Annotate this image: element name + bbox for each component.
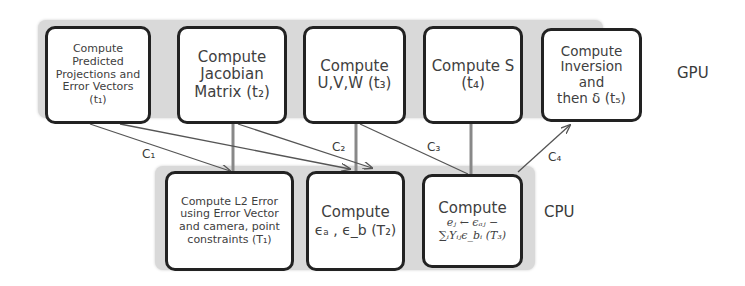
wire-c2	[238, 124, 372, 168]
gpu-task-t1: Compute Predicted Projections and Error …	[45, 26, 151, 124]
task-line: Compute	[321, 204, 389, 221]
gpu-task-t2: Compute Jacobian Matrix (t₂)	[177, 26, 287, 124]
cpu-label: CPU	[544, 203, 575, 221]
wire-c3	[360, 124, 468, 174]
task-line: Compute	[561, 44, 623, 60]
task-line: constraints (T₁)	[187, 234, 271, 247]
task-line: eⱼ ← ϵₐⱼ −	[447, 217, 499, 230]
label-c4: C₄	[548, 150, 561, 164]
task-line: Compute	[320, 58, 388, 75]
cpu-task-T3: Compute eⱼ ← ϵₐⱼ − ∑ᵢYᵢⱼϵ_bᵢ (T₃)	[422, 174, 523, 268]
task-line: ∑ᵢYᵢⱼϵ_bᵢ (T₃)	[439, 230, 506, 243]
wire-c1	[90, 124, 230, 171]
task-line: and	[579, 75, 604, 91]
cpu-task-T1: Compute L2 Error using Error Vector and …	[165, 171, 294, 271]
cpu-task-T2: Compute ϵₐ , ϵ_b (T₂)	[306, 171, 405, 271]
gpu-task-t3: Compute U,V,W (t₃)	[303, 26, 406, 124]
task-line: Compute	[198, 49, 266, 66]
label-c2: C₂	[332, 140, 345, 154]
task-line: (t₁)	[89, 94, 106, 107]
task-line: U,V,W (t₃)	[318, 75, 392, 92]
gpu-label: GPU	[677, 64, 709, 82]
task-line: Jacobian	[200, 66, 263, 83]
task-line: (t₄)	[461, 75, 485, 92]
task-line: Predicted	[72, 56, 124, 69]
task-line: and camera, point	[179, 221, 280, 234]
wire-c4	[518, 125, 570, 172]
label-c1: C₁	[142, 147, 155, 161]
gpu-task-t4: Compute S (t₄)	[423, 26, 523, 124]
task-line: Matrix (t₂)	[194, 84, 270, 101]
task-line: Compute	[438, 200, 506, 217]
task-line: ϵₐ , ϵ_b (T₂)	[315, 222, 396, 238]
task-line: Compute S	[432, 58, 515, 75]
gpu-task-t5: Compute Inversion and then δ (t₅)	[541, 28, 642, 122]
label-c3: C₃	[427, 140, 440, 154]
task-line: Inversion	[561, 59, 623, 75]
task-line: then δ (t₅)	[557, 91, 626, 107]
